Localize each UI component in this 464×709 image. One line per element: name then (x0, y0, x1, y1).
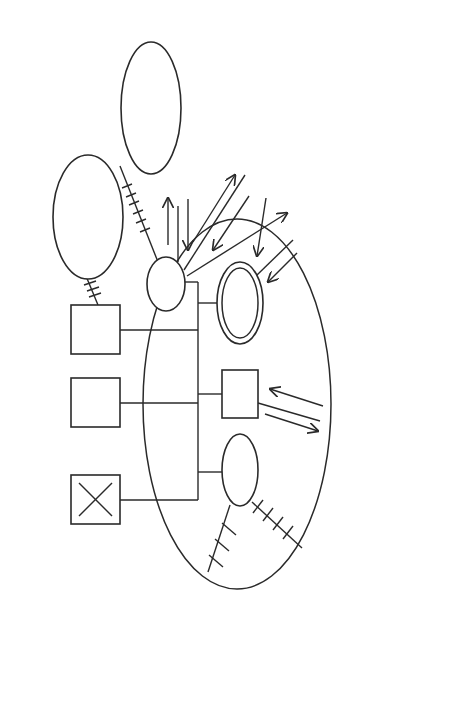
system-corrections (121, 42, 181, 174)
system-order-of-protection (53, 155, 123, 279)
member-jim (71, 305, 120, 354)
connection-dss-lori (168, 198, 188, 262)
member-deceased-male (71, 475, 120, 524)
connection-order-jim (84, 276, 101, 305)
ecomap-diagram (0, 0, 464, 709)
member-lori (147, 257, 185, 311)
member-unnamed-male (71, 378, 120, 427)
member-donna (222, 434, 258, 506)
member-barbie (217, 262, 263, 344)
connection-cps-donna (208, 505, 236, 572)
connection-medical-donna (252, 500, 302, 548)
connection-corrections-lori (120, 166, 158, 262)
connection-urban-david (258, 389, 323, 431)
member-david (222, 370, 258, 418)
genogram-lines (120, 282, 222, 500)
